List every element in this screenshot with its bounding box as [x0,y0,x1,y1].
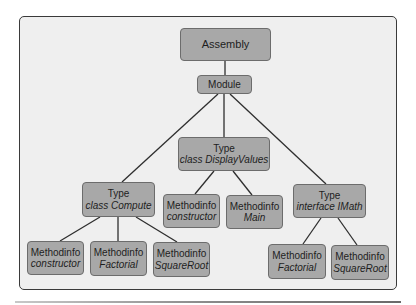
node-label: Methodinfo [272,250,321,262]
node-sublabel: class Compute [85,200,151,212]
node-compute-constructor: Methodinfo constructor [27,241,84,275]
node-imath-squareroot: Methodinfo SquareRoot [331,245,389,280]
node-sublabel: Factorial [99,259,137,271]
edge-compute-constructor [60,217,100,241]
node-sublabel: class DisplayValues [180,154,269,166]
edge-displayvalues-main [233,171,252,195]
node-type-imath: Type interface IMath [293,184,366,218]
node-label: Methodinfo [167,200,216,212]
node-sublabel: SquareRoot [155,260,208,272]
node-sublabel: SquareRoot [333,263,386,275]
node-label: Methodinfo [335,251,384,263]
node-assembly: Assembly [180,28,271,61]
node-sublabel: interface IMath [296,201,362,213]
edge-imath-factorial [303,218,321,244]
edge-imath-squareroot [338,218,357,245]
node-sublabel: constructor [167,211,216,223]
bottom-divider [15,301,401,303]
node-label: Methodinfo [157,248,206,260]
node-imath-factorial: Methodinfo Factorial [268,244,326,279]
node-label: Methodinfo [94,247,143,259]
node-compute-squareroot: Methodinfo SquareRoot [153,242,210,277]
node-sublabel: Main [244,212,266,224]
node-type-compute: Type class Compute [82,182,155,217]
node-label: Methodinfo [31,247,80,259]
node-label: Type [108,188,130,200]
node-compute-factorial: Methodinfo Factorial [90,241,147,276]
node-label: Module [208,79,241,91]
node-label: Methodinfo [230,201,279,213]
node-dv-main: Methodinfo Main [226,195,283,229]
node-sublabel: constructor [31,258,80,270]
node-label: Type [319,190,341,202]
node-module: Module [197,75,252,94]
edge-displayvalues-constructor [195,171,214,194]
node-label: Assembly [202,38,250,51]
node-dv-constructor: Methodinfo constructor [163,194,220,228]
node-label: Type [213,143,235,155]
node-sublabel: Factorial [278,262,316,274]
node-type-displayvalues: Type class DisplayValues [178,137,270,171]
